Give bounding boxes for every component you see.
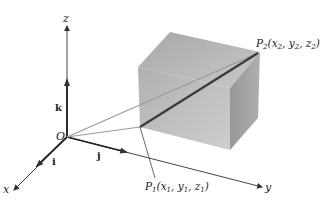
k-label: k (55, 102, 63, 113)
i-label: i (52, 156, 56, 167)
x-axis-label: x (3, 183, 10, 196)
p2-label: P2(x2, y2, z2) (255, 37, 320, 51)
j-label: j (96, 150, 101, 161)
z-axis-label: z (62, 12, 69, 25)
vector-diagram: z x y k i j O P2(x2, y2, z2) P1(x1, y1, … (0, 0, 322, 203)
y-axis-label: y (264, 181, 272, 194)
p1-leader-line (140, 127, 155, 178)
origin-label: O (56, 130, 65, 143)
p1-label: P1(x1, y1, z1) (144, 180, 209, 194)
